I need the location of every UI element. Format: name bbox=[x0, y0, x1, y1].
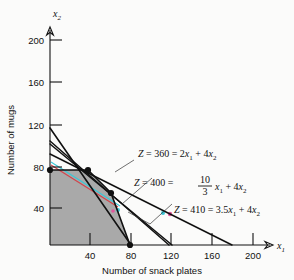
annotation-z360: Z = 360 = 2x1 + 4x2 bbox=[138, 148, 217, 162]
registration-dot-magenta-2 bbox=[111, 209, 115, 213]
x-tick-label-40: 40 bbox=[85, 250, 96, 261]
plot-canvas: 200 160 120 80 40 40 80 120 160 200 x2 x… bbox=[0, 0, 294, 280]
y-tick-label-80: 80 bbox=[33, 162, 44, 173]
x-tick-label-160: 160 bbox=[204, 250, 220, 261]
y-tick-label-40: 40 bbox=[33, 203, 44, 214]
annotation-z400-tail: x1 + 4x2 bbox=[214, 181, 247, 195]
y-tick-label-160: 160 bbox=[28, 77, 44, 88]
leader-z360 bbox=[115, 160, 134, 172]
vertex-marker bbox=[108, 190, 114, 196]
y-axis-variable-label: x2 bbox=[52, 8, 61, 22]
x-axis-title: Number of snack plates bbox=[102, 265, 202, 276]
y-axis-title: Number of mugs bbox=[5, 105, 16, 175]
annotation-z400: Z = 400 = bbox=[134, 177, 174, 188]
vertex-marker bbox=[85, 167, 91, 173]
y-tick-label-120: 120 bbox=[28, 120, 44, 131]
annotation-z410: Z = 410 = 3.5x1 + 4x2 bbox=[174, 204, 260, 218]
annotation-z400-fraction-numerator: 10 bbox=[200, 174, 210, 185]
annotation-z400-fraction-denominator: 3 bbox=[203, 186, 208, 197]
x-tick-label-120: 120 bbox=[163, 250, 179, 261]
x-tick-label-200: 200 bbox=[245, 250, 261, 261]
x-axis-variable-label: x1 bbox=[276, 240, 285, 254]
x-tick-label-80: 80 bbox=[126, 250, 137, 261]
y-tick-label-200: 200 bbox=[28, 35, 44, 46]
linear-programming-graph: 200 160 120 80 40 40 80 120 160 200 x2 x… bbox=[0, 0, 294, 280]
